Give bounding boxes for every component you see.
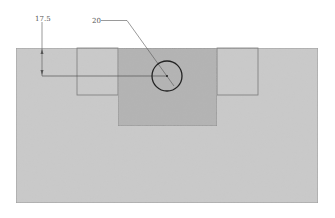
dimension-label-vertical: 17.5 [35, 15, 51, 23]
hole-center-point [166, 75, 168, 77]
dimension-label-hole: 20 [92, 17, 101, 25]
technical-drawing: 17.5 20 [0, 0, 335, 218]
center-block [118, 48, 217, 126]
